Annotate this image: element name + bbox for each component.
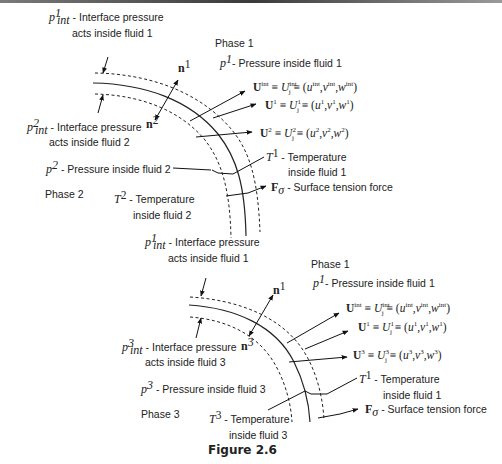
normal-vector-inner-label: n2 <box>146 118 158 131</box>
interface-pressure-inner-label-2-line2: acts inside fluid 3 <box>145 356 226 369</box>
temperature-inner-label-2-line2: inside fluid 3 <box>229 429 287 442</box>
phase-label-outer-2: Phase 1 <box>311 258 350 271</box>
phase-label-inner-2: Phase 3 <box>141 408 180 421</box>
temperature-inner-label: T2 - Temperature <box>114 193 195 206</box>
velocity-inner-label: U2 ≡ U2j ≡ (u2,v2,w2) <box>260 127 349 140</box>
phase-label-inner: Phase 2 <box>45 188 84 201</box>
temperature-inner-label-2: T3 - Temperature <box>209 413 290 426</box>
normal-vector-inner-label-2: n3 <box>241 340 253 353</box>
velocity-outer-label: U1 ≡ U1j ≡ (u1,v1,w1) <box>265 99 354 112</box>
interface-pressure-inner-label-line2: acts inside fluid 2 <box>49 136 130 149</box>
temperature-outer-label-2-line2: inside fluid 1 <box>383 389 441 402</box>
temperature-outer-label-line2: inside fluid 1 <box>288 166 346 179</box>
normal-vector-outer-label-2: n1 <box>273 284 285 297</box>
interface-pressure-outer-label: p1int - Interface pressure <box>49 11 164 24</box>
interface-pressure-outer-label-2-line2: acts inside fluid 1 <box>168 252 249 265</box>
velocity-interface-label-2: Uint ≡ Uintj ≡ (uint,vint,wint) <box>346 302 450 315</box>
phase-label-outer: Phase 1 <box>215 37 254 50</box>
interface-pressure-outer-label-line2: acts inside fluid 1 <box>72 27 153 40</box>
velocity-outer-label-2: U1 ≡ U1j ≡ (u1,v1,w1) <box>358 321 447 334</box>
normal-vector-outer-label: n1 <box>178 62 190 75</box>
temperature-outer-label: T1 - Temperature <box>266 151 347 164</box>
inner-dashed-boundary <box>190 317 292 422</box>
velocity-inner-label-2: U3 ≡ U3j ≡ (u3,v3,w3) <box>353 349 442 362</box>
surface-tension-label-2: Fσ - Surface tension force <box>365 403 487 416</box>
interface-pressure-inner-label-2: p3int - Interface pressure <box>122 341 237 354</box>
figure-caption: Figure 2.6 <box>208 443 277 457</box>
temperature-inner-label-line2: inside fluid 2 <box>133 209 191 222</box>
surface-tension-label: Fσ - Surface tension force <box>271 181 393 194</box>
pressure-inner-label: p2 - Pressure inside fluid 2 <box>46 163 171 176</box>
temperature-outer-label-2: T1 - Temperature <box>359 373 440 386</box>
velocity-interface-label: Uint ≡ Uintj ≡ (uint,vint,wint) <box>253 81 357 94</box>
pressure-inner-label-2: p3 - Pressure inside fluid 3 <box>141 383 266 396</box>
interface-pressure-inner-label: p2int - Interface pressure <box>27 121 142 134</box>
pressure-outer-label: p1- Pressure inside fluid 1 <box>220 57 342 70</box>
interface-pressure-outer-label-2: p1int - Interface pressure <box>145 236 260 249</box>
pressure-outer-label-2: p1- Pressure inside fluid 1 <box>313 277 435 290</box>
